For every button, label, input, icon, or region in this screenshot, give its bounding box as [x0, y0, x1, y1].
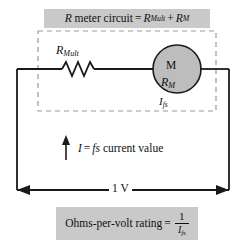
current-note-text: current value	[103, 142, 163, 154]
current-note-value: fs	[92, 142, 100, 154]
resistor-label-subscript: Mult	[63, 49, 78, 58]
meter-circuit-figure: R meter circuit=RMult+RM RMult M	[0, 0, 249, 244]
meter-fullscale-current-label: Ifs	[159, 96, 168, 109]
fraction-denominator: Ifs	[178, 224, 186, 237]
meter-resistance-label: RM	[161, 76, 175, 90]
current-direction-arrowhead	[62, 135, 70, 145]
source-arrowhead-right	[216, 185, 229, 195]
meter-symbol-label: M	[166, 60, 176, 72]
meter-resistance-subscript: M	[168, 81, 175, 90]
ohms-per-volt-fraction: 1 Ifs	[175, 211, 189, 237]
bottom-banner-equals: =	[162, 218, 173, 230]
resistor-label: RMult	[56, 44, 79, 58]
fraction-numerator: 1	[179, 211, 185, 223]
current-note-equals: =	[82, 142, 93, 154]
source-arrowhead-left	[17, 185, 30, 195]
bottom-banner-text: Ohms-per-volt rating	[65, 218, 162, 230]
source-voltage-label: 1 V	[109, 183, 132, 195]
current-value-note: I=fs current value	[78, 143, 163, 155]
meter-current-subscript: fs	[163, 100, 168, 109]
resistor-zigzag-symbol	[62, 62, 94, 76]
fraction-denominator-subscript: fs	[181, 229, 186, 236]
bottom-equation-banner: Ohms-per-volt rating= 1 Ifs	[56, 207, 198, 240]
